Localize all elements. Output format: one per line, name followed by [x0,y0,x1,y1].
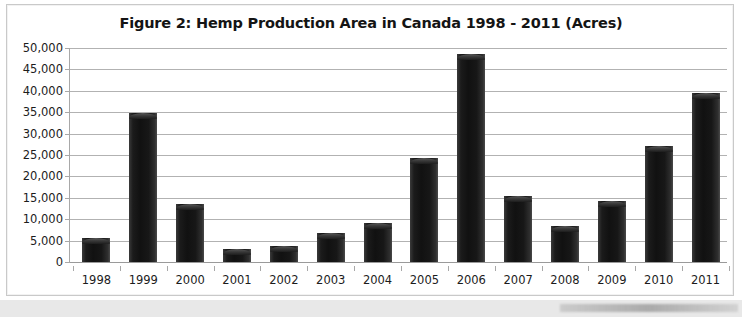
y-axis-tick-label: 50,000 [11,41,63,55]
y-axis-tick-label: 10,000 [11,212,63,226]
gridline [69,48,727,49]
y-axis-tick [65,112,70,113]
x-axis-tick-label: 2004 [355,273,401,287]
x-axis-tick-label: 2002 [261,273,307,287]
x-axis-tick [214,266,215,271]
y-axis-tick [65,219,70,220]
y-axis-tick [65,69,70,70]
bar-cap [129,113,157,119]
chart-title: Figure 2: Hemp Production Area in Canada… [7,15,735,31]
bar-cap [457,54,485,60]
x-axis-tick-label: 2005 [401,273,447,287]
x-axis-tick-label: 1999 [120,273,166,287]
x-axis-tick-label: 2001 [214,273,260,287]
y-axis-tick-label: 15,000 [11,191,63,205]
y-axis-tick [65,241,70,242]
y-axis-tick-label: 45,000 [11,62,63,76]
gridline [69,262,727,263]
bar[interactable] [270,246,298,262]
bar-cap [82,238,110,244]
x-axis-tick-label: 1998 [73,273,119,287]
x-axis-tick [401,266,402,271]
y-axis-labels: 50,00045,00040,00035,00030,00025,00020,0… [7,48,63,268]
bar[interactable] [82,238,110,262]
bar-cap [223,249,251,255]
x-axis-tick-label: 2011 [683,273,729,287]
bar[interactable] [645,146,673,262]
y-axis-tick-label: 20,000 [11,169,63,183]
bar[interactable] [692,93,720,262]
x-axis-tick [448,266,449,271]
bar[interactable] [504,196,532,262]
page-bottom-band [0,300,742,317]
x-axis-tick [260,266,261,271]
bar-cap [176,204,204,210]
y-axis-tick [65,91,70,92]
bar[interactable] [317,233,345,262]
x-axis-tick [354,266,355,271]
x-axis-tick [542,266,543,271]
x-axis-tick [635,266,636,271]
bar-cap [692,93,720,99]
y-axis-tick [65,198,70,199]
bar-cap [410,158,438,164]
y-axis-tick-label: 0 [11,255,63,269]
y-axis-tick-label: 25,000 [11,148,63,162]
x-axis-tick [73,266,74,271]
y-axis-tick [65,134,70,135]
x-axis-tick-label: 2000 [167,273,213,287]
bar[interactable] [223,249,251,262]
y-axis-tick [65,155,70,156]
y-axis-tick [65,48,70,49]
y-axis-tick-label: 5,000 [11,234,63,248]
y-axis-tick-label: 40,000 [11,84,63,98]
gridline [69,69,727,70]
x-axis-tick-label: 2010 [636,273,682,287]
x-axis-tick [120,266,121,271]
plot-area [69,48,735,266]
gridline [69,91,727,92]
x-axis-labels: 1998199920002001200220032004200520062007… [69,273,739,295]
bar-cap [598,201,626,207]
bar-cap [504,196,532,202]
x-axis-tick [588,266,589,271]
x-axis-tick-label: 2008 [542,273,588,287]
gridline [69,155,727,156]
x-axis-tick [682,266,683,271]
gridline [69,176,727,177]
y-axis-tick-label: 35,000 [11,105,63,119]
x-axis-tick [729,266,730,271]
plot-inner [69,48,735,262]
bar-cap [317,233,345,239]
bar[interactable] [598,201,626,262]
y-axis-tick [65,262,70,263]
bar[interactable] [364,223,392,262]
bar[interactable] [551,226,579,262]
gridline [69,241,727,242]
gridline [69,112,727,113]
chart-card: Figure 2: Hemp Production Area in Canada… [6,4,734,296]
bar-cap [551,226,579,232]
bar[interactable] [176,204,204,262]
gridline [69,219,727,220]
x-axis-tick-label: 2009 [589,273,635,287]
bar-cap [270,246,298,252]
bar[interactable] [410,158,438,262]
bar-cap [645,146,673,152]
screenshot-root: Figure 2: Hemp Production Area in Canada… [0,0,742,317]
gridline [69,134,727,135]
bar[interactable] [129,113,157,262]
x-axis-tick-label: 2006 [448,273,494,287]
bar[interactable] [457,54,485,262]
bar-cap [364,223,392,229]
y-axis-tick [65,176,70,177]
x-axis-tick [307,266,308,271]
x-axis-tick-label: 2003 [308,273,354,287]
gridline [69,198,727,199]
y-axis-tick-label: 30,000 [11,127,63,141]
scan-smudge [560,304,738,312]
x-axis-tick-label: 2007 [495,273,541,287]
x-axis-tick [167,266,168,271]
x-axis-tick [495,266,496,271]
